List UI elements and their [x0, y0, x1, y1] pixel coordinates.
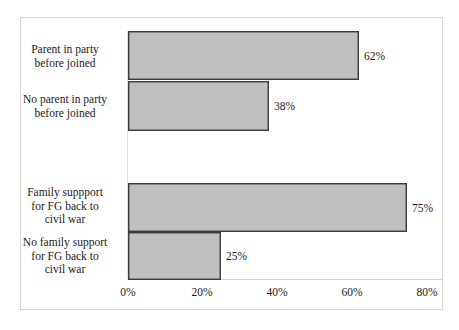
bar-chart-plot-area: Parent in party before joined No parent … — [0, 0, 459, 330]
x-tick-label-0: 0% — [120, 286, 135, 299]
x-tick-label-80: 80% — [416, 286, 437, 299]
bar-value-no-parent-in-party: 38% — [274, 100, 295, 112]
category-label-no-parent-in-party: No parent in party before joined — [6, 93, 124, 120]
x-tick-label-60: 60% — [341, 286, 362, 299]
bar-no-family-support — [128, 232, 221, 280]
bar-no-parent-in-party — [128, 81, 269, 131]
x-tick-label-40: 40% — [266, 286, 287, 299]
category-label-no-family-support: No family support for FG back to civil w… — [6, 236, 124, 277]
bar-value-parent-in-party: 62% — [364, 50, 385, 62]
category-label-parent-in-party: Parent in party before joined — [6, 43, 124, 70]
bar-parent-in-party — [128, 31, 359, 80]
bar-family-support — [128, 183, 407, 232]
bar-value-family-support: 75% — [412, 202, 433, 214]
category-label-family-support: Family suppport for FG back to civil war — [6, 186, 124, 227]
bar-value-no-family-support: 25% — [226, 250, 247, 262]
x-tick-label-20: 20% — [191, 286, 212, 299]
